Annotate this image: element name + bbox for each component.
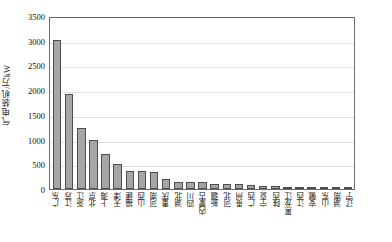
bar [53,40,61,190]
x-axis-tick-label: 黑龙江 [285,192,293,215]
x-axis-tick-label: 贵州 [236,192,244,207]
x-axis-tick-slot: 山西 [136,192,148,242]
bar [332,187,340,189]
x-axis-tick-slot: 重庆 [160,192,172,242]
bar [307,187,315,189]
x-axis-tick-slot: 宁夏 [258,192,270,242]
bar [283,187,291,189]
bar [101,154,109,189]
x-axis-tick-slot: 江西 [295,192,307,242]
bar-slot [160,18,172,189]
y-axis-title-text: 气电装机/万kW [3,65,12,125]
x-axis-tick-label: 四川 [187,192,195,207]
bar-slot [342,18,354,189]
bar-slot [87,18,99,189]
x-axis-tick-label: 新疆 [211,192,219,207]
x-axis-tick-label: 浙江 [77,192,85,207]
x-axis-tick-slot: 湖南 [331,192,343,242]
x-axis-tick-slot: 浙江 [74,192,86,242]
bar [89,140,97,189]
y-axis-tick-label: 3500 [28,13,45,22]
bar-slot [233,18,245,189]
x-axis-tick-label: 安徽 [309,192,317,207]
x-axis-tick-label: 湖南 [334,192,342,207]
x-axis-tick-label: 重庆 [162,192,170,207]
x-axis-tick-slot: 江苏 [62,192,74,242]
x-axis-tick-label: 陕西 [273,192,281,207]
bar [295,187,303,189]
bar-slot [172,18,184,189]
bar [113,164,121,189]
bar-slot [63,18,75,189]
x-axis-tick-slot: 河南 [148,192,160,242]
bar-slot [197,18,209,189]
bar-slot [112,18,124,189]
bar-slot [124,18,136,189]
bar-slot [318,18,330,189]
x-axis-tick-slot: 贵州 [234,192,246,242]
y-axis-tick-labels: 0500100015002000250030003500 [14,17,48,190]
bar-slot [51,18,63,189]
x-axis-tick-slot: 广西 [246,192,258,242]
bar [259,186,267,189]
y-axis-tick-label: 2000 [28,87,45,96]
bar-slot [148,18,160,189]
bar-slot [257,18,269,189]
bar-slot [75,18,87,189]
bar [198,182,206,189]
bar [271,186,279,189]
x-axis-tick-slot: 山东 [319,192,331,242]
bar [344,187,352,189]
x-axis-tick-slot: 北京 [87,192,99,242]
x-axis-tick-label: 宁夏 [260,192,268,207]
bar-slot [281,18,293,189]
x-axis-tick-label: 河北 [224,192,232,207]
y-axis-tick-label: 2500 [28,62,45,71]
y-axis-tick-label: 0 [41,186,45,195]
bar [210,184,218,189]
x-axis-tick-label: 广西 [248,192,256,207]
bar-slot [136,18,148,189]
bar-slot [209,18,221,189]
x-axis-tick-label: 内蒙古 [199,192,207,215]
x-axis-tick-slot: 四川 [185,192,197,242]
x-axis-tick-label: 辽宁 [346,192,354,207]
x-axis-tick-label: 江苏 [65,192,73,207]
x-axis-tick-slot: 陕西 [270,192,282,242]
x-axis-tick-slot: 内蒙古 [197,192,209,242]
x-axis-tick-slot: 新疆 [209,192,221,242]
x-axis-tick-labels: 广东江苏浙江北京上海天津福建山西河南重庆湖北四川内蒙古新疆河北贵州广西宁夏陕西黑… [49,192,356,242]
bar [247,185,255,189]
x-axis-tick-slot: 广东 [50,192,62,242]
x-axis-tick-label: 湖北 [175,192,183,207]
bar [223,184,231,189]
bar-slot [100,18,112,189]
bar [150,172,158,189]
x-axis-tick-slot: 天津 [111,192,123,242]
bar-slot [330,18,342,189]
x-axis-tick-slot: 福建 [123,192,135,242]
y-axis-title: 气电装机/万kW [0,0,14,190]
x-axis-tick-slot: 辽宁 [344,192,356,242]
x-axis-tick-label: 福建 [126,192,134,207]
y-axis-tick-label: 3000 [28,37,45,46]
bar [77,128,85,189]
x-axis-tick-label: 河南 [150,192,158,207]
bar-slot [269,18,281,189]
bar [126,171,134,189]
x-axis-tick-slot: 安徽 [307,192,319,242]
x-axis-tick-slot: 上海 [99,192,111,242]
bar [138,171,146,189]
bar-chart: 气电装机/万kW 0500100015002000250030003500 广东… [0,0,392,242]
y-axis-tick-label: 500 [32,161,45,170]
x-axis-tick-label: 江西 [297,192,305,207]
bar [320,187,328,189]
plot-area [49,17,355,190]
bar [162,179,170,189]
bar [174,182,182,189]
x-axis-tick-slot: 黑龙江 [282,192,294,242]
x-axis-tick-label: 山西 [138,192,146,207]
bar [65,94,73,189]
y-axis-tick-label: 1000 [28,136,45,145]
x-axis-tick-label: 天津 [114,192,122,207]
